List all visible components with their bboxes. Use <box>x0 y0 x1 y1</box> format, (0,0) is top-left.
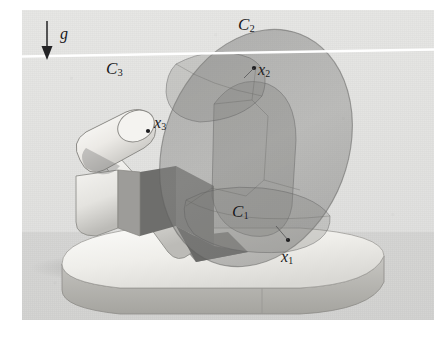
robot-link-middle <box>76 170 140 236</box>
label-C2: C2 <box>238 16 255 35</box>
label-C3: C3 <box>106 60 123 79</box>
gravity-arrow <box>42 21 53 60</box>
gravity-label: g <box>60 26 68 42</box>
scene-drawing <box>0 0 446 339</box>
figure-root: g C1 C2 C3 x1 x2 x3 <box>0 0 446 339</box>
label-x3: x3 <box>154 115 166 132</box>
label-x2: x2 <box>258 62 270 79</box>
label-x1: x1 <box>281 249 293 266</box>
link-middle-body <box>76 170 118 236</box>
link-middle-side <box>118 170 140 236</box>
marker-x3 <box>146 129 150 133</box>
label-C1: C1 <box>232 203 249 222</box>
gravity-arrow-head <box>42 46 53 60</box>
